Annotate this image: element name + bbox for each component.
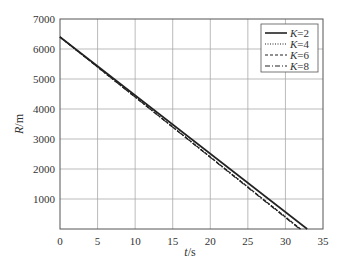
x-tick-label: 5 xyxy=(95,235,101,247)
x-tick-label: 25 xyxy=(242,235,254,247)
y-tick-label: 2000 xyxy=(33,163,56,175)
y-tick-label: 3000 xyxy=(33,133,56,145)
x-tick-label: 15 xyxy=(167,235,179,247)
y-tick-labels: 1000200030004000500060007000 xyxy=(33,13,56,205)
x-tick-label: 10 xyxy=(130,235,142,247)
x-axis-label: t/s xyxy=(184,245,196,259)
x-tick-label: 30 xyxy=(280,235,292,247)
x-tick-label: 35 xyxy=(318,235,330,247)
y-axis-label: R/m xyxy=(12,113,26,135)
y-tick-label: 6000 xyxy=(33,43,56,55)
y-tick-label: 5000 xyxy=(33,73,56,85)
x-tick-label: 0 xyxy=(57,235,63,247)
x-tick-label: 20 xyxy=(205,235,217,247)
y-tick-label: 7000 xyxy=(33,13,56,25)
chart: 05101520253035 1000200030004000500060007… xyxy=(0,0,341,270)
y-tick-label: 4000 xyxy=(33,103,56,115)
legend-label: K=8 xyxy=(289,60,310,72)
legend: K=2K=4K=6K=8 xyxy=(261,24,318,72)
y-tick-label: 1000 xyxy=(33,193,56,205)
